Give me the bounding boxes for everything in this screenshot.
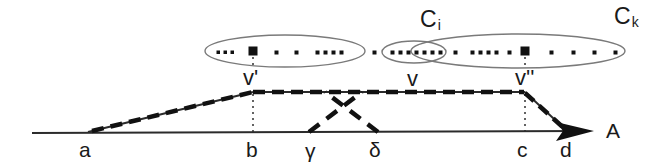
cluster-dot xyxy=(217,51,221,55)
cluster-dot xyxy=(508,51,512,55)
cluster-anchor-square-left xyxy=(249,47,258,56)
vertex-label-v-double-prime: v'' xyxy=(515,67,534,89)
cluster-dot xyxy=(324,51,328,55)
cluster-dot xyxy=(231,51,235,55)
cluster-anchor-square-right xyxy=(521,47,530,56)
vertex-label-v-prime: v' xyxy=(243,67,258,89)
cluster-dot xyxy=(340,51,344,55)
cluster-label-ck: Ck xyxy=(614,5,638,28)
cluster-dot xyxy=(275,51,279,55)
axis-point-label-d: d xyxy=(560,139,572,160)
crossing-X-paths xyxy=(309,92,378,132)
cluster-dot xyxy=(572,51,576,55)
cluster-dot xyxy=(439,51,443,55)
cluster-dot xyxy=(332,51,336,55)
dashed-left-slope xyxy=(92,92,253,131)
cluster-dot xyxy=(479,51,483,55)
cluster-dot xyxy=(415,51,419,55)
cluster-dot xyxy=(614,51,618,55)
cluster-dot xyxy=(391,51,395,55)
axis-point-label-c: c xyxy=(517,139,528,160)
cluster-dot xyxy=(373,51,377,55)
cluster-label-ci-sub: i xyxy=(438,17,441,33)
trapezoid-outline xyxy=(88,92,567,132)
dashed-overlay-path xyxy=(92,92,566,131)
cluster-dot xyxy=(593,51,597,55)
cluster-dot xyxy=(495,51,499,55)
cluster-dot xyxy=(224,51,228,55)
axis-name-label: A xyxy=(606,120,620,141)
cluster-dot xyxy=(407,51,411,55)
cluster-points xyxy=(217,47,618,56)
axis-point-label-gamma: γ xyxy=(305,140,316,161)
vertex-label-v: v xyxy=(407,68,418,90)
trapezoid-cluster-diagram: Ci Ck v' v v'' a b γ δ c d A xyxy=(0,0,668,167)
cluster-dot xyxy=(316,51,320,55)
cluster-dot xyxy=(295,51,299,55)
axis-point-label-a: a xyxy=(79,139,91,160)
cluster-label-ck-sub: k xyxy=(632,14,639,30)
cluster-dot xyxy=(487,51,491,55)
dashed-right-slope xyxy=(525,93,566,130)
axis-point-label-b: b xyxy=(246,139,258,160)
cluster-label-ck-text: C xyxy=(614,3,631,29)
cluster-dot xyxy=(423,51,427,55)
cluster-dot xyxy=(454,51,458,55)
cluster-dot xyxy=(399,51,403,55)
cluster-dot xyxy=(471,51,475,55)
cluster-label-ci: Ci xyxy=(420,8,440,31)
cluster-dot xyxy=(550,51,554,55)
cluster-dot xyxy=(431,51,435,55)
vertical-guides xyxy=(253,57,525,132)
cluster-label-ci-text: C xyxy=(420,6,437,32)
axis-point-label-delta: δ xyxy=(369,139,381,160)
